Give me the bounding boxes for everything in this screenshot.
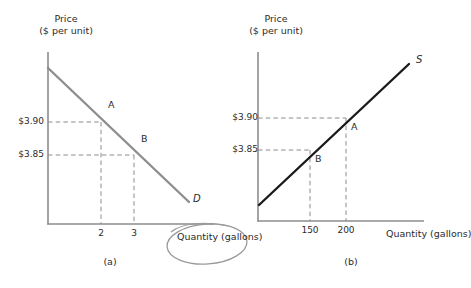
panel-b-xtick-200: 200 xyxy=(334,225,358,235)
panel-a-x-axis-title-line1: Quantity xyxy=(177,231,218,242)
panel-b-y-axis-title-line2: ($ per unit) xyxy=(228,25,324,37)
panel-a-ytick-385: $3.85 xyxy=(2,149,44,159)
panel-b-y-axis-title-line1: Price xyxy=(228,13,324,25)
panel-b-x-axis-title: Quantity (gallons) xyxy=(386,228,446,240)
panel-a-xtick-3: 3 xyxy=(124,228,144,238)
panel-b-ytick-390: $3.90 xyxy=(216,112,258,122)
panel-b-ytick-385: $3.85 xyxy=(216,144,258,154)
panel-a-y-axis-title: Price ($ per unit) xyxy=(18,13,114,37)
panel-b-y-axis-title: Price ($ per unit) xyxy=(228,13,324,37)
panel-a-point-label-b: B xyxy=(141,133,148,144)
panel-a-caption: (a) xyxy=(90,256,130,267)
panel-b-x-axis-title-line2: (gallons) xyxy=(430,228,471,239)
supply-curve-label: S xyxy=(416,54,422,65)
panel-a-x-axis-title: Quantity (gallons) xyxy=(177,231,237,243)
panel-a-ytick-390: $3.90 xyxy=(2,116,44,126)
panel-b-point-label-b: B xyxy=(315,153,322,164)
panel-b-x-axis-title-line1: Quantity xyxy=(386,228,427,239)
panel-a-y-axis-title-line1: Price xyxy=(18,13,114,25)
panel-a-point-label-a: A xyxy=(108,99,115,110)
panel-b-point-label-a: A xyxy=(351,121,358,132)
demand-curve-label: D xyxy=(193,193,201,204)
panel-a-y-axis-title-line2: ($ per unit) xyxy=(18,25,114,37)
panel-b-xtick-150: 150 xyxy=(298,225,322,235)
panel-b-caption: (b) xyxy=(331,256,371,267)
panel-a: Price ($ per unit) $3.90 $3.85 2 3 A B D… xyxy=(0,0,230,288)
panel-b: Price ($ per unit) $3.90 $3.85 150 200 A… xyxy=(230,0,460,288)
panel-a-xtick-2: 2 xyxy=(91,228,111,238)
